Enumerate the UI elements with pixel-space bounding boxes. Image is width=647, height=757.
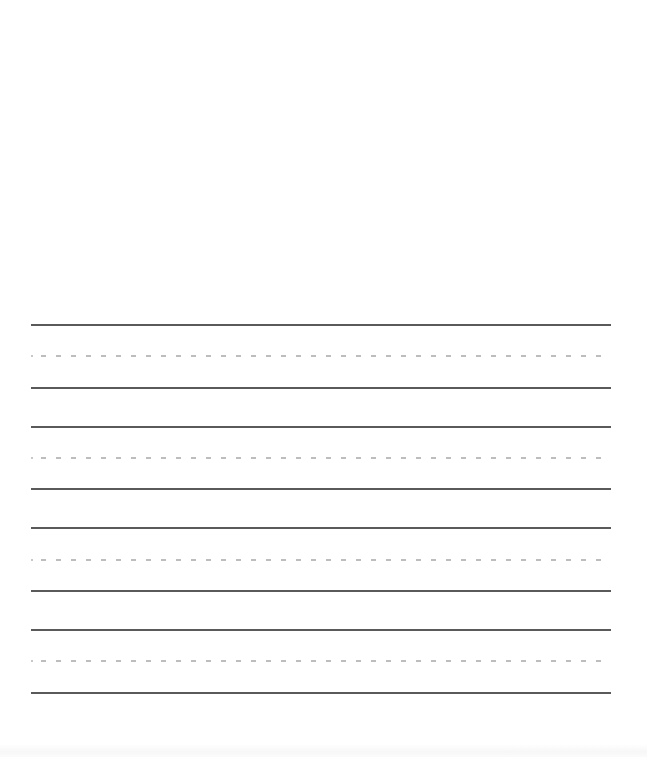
baseline-solid-line — [31, 590, 611, 592]
top-solid-line — [31, 426, 611, 428]
baseline-solid-line — [31, 692, 611, 694]
top-solid-line — [31, 629, 611, 631]
baseline-solid-line — [31, 387, 611, 389]
midline-dashed — [31, 559, 611, 561]
top-solid-line — [31, 527, 611, 529]
baseline-solid-line — [31, 488, 611, 490]
top-solid-line — [31, 324, 611, 326]
practice-sheet — [0, 0, 647, 757]
midline-dashed — [31, 660, 611, 662]
midline-dashed — [31, 457, 611, 459]
midline-dashed — [31, 355, 611, 357]
scan-edge-artifact — [0, 744, 647, 757]
